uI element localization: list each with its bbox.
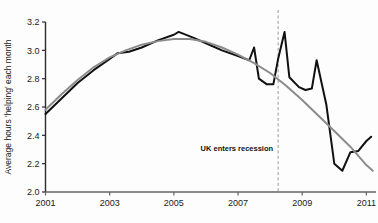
y-axis: 2.02.22.42.62.83.03.2 [27,17,46,197]
y-axis-title: Average hours 'helping' each month [3,39,13,174]
x-axis-tick-label: 2007 [228,198,248,208]
y-axis-tick-label: 3.2 [27,17,40,27]
y-axis-tick-label: 2.6 [27,102,40,112]
y-axis-tick-label: 2.0 [27,187,40,197]
x-axis-tick-label: 2011 [357,198,376,208]
x-axis-tick-label: 2009 [292,198,312,208]
x-axis: 200120032005200720092011 [35,192,376,208]
y-axis-tick-label: 3.0 [27,46,40,56]
y-axis-tick-label: 2.8 [27,74,40,84]
chart-container: 2.02.22.42.62.83.03.2 200120032005200720… [0,0,378,223]
x-axis-tick-label: 2003 [100,198,120,208]
axis-labels-layer: Average hours 'helping' each month [3,39,13,174]
line-chart-plot: 2.02.22.42.62.83.03.2 200120032005200720… [0,0,378,223]
x-axis-tick-label: 2001 [35,198,55,208]
y-axis-tick-label: 2.4 [27,131,40,141]
y-axis-tick-label: 2.2 [27,159,40,169]
annotation-layer: UK enters recession [201,10,279,192]
x-axis-tick-label: 2005 [164,198,184,208]
recession-annotation-label: UK enters recession [201,144,274,153]
